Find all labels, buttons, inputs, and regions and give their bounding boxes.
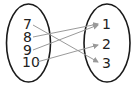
range-value-2: 2: [102, 36, 111, 52]
arrow-10-to-2: [37, 45, 98, 62]
range-value-1: 1: [102, 16, 111, 32]
mapping-diagram: 7 8 9 10 1 2 3: [0, 0, 135, 89]
range-value-3: 3: [102, 55, 111, 71]
arrow-9-to-1: [33, 25, 98, 50]
